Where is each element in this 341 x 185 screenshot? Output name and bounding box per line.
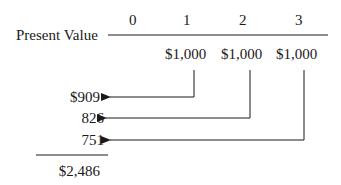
cash-flow-2: $1,000 bbox=[221, 46, 262, 62]
period-0-label: 0 bbox=[129, 12, 137, 28]
period-3-label: 3 bbox=[295, 12, 303, 28]
discount-arrow-2 bbox=[106, 70, 250, 118]
present-value-1: $909 bbox=[40, 89, 100, 105]
discount-arrow-1 bbox=[110, 70, 194, 97]
cash-flow-1: $1,000 bbox=[165, 46, 206, 62]
present-value-3: 751 bbox=[40, 132, 104, 148]
total-present-value: $2,486 bbox=[40, 163, 100, 179]
period-2-label: 2 bbox=[239, 12, 247, 28]
cash-flow-3: $1,000 bbox=[276, 46, 317, 62]
present-value-label: Present Value bbox=[16, 27, 98, 43]
discount-arrow-3 bbox=[110, 70, 304, 140]
period-1-label: 1 bbox=[183, 12, 191, 28]
present-value-2: 826 bbox=[40, 110, 104, 126]
